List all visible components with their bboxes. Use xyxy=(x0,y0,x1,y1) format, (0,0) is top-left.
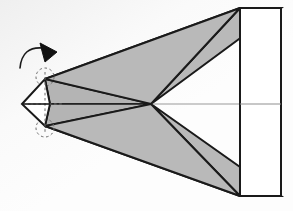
projection-diagram xyxy=(0,0,293,211)
figure-canvas xyxy=(0,0,293,211)
projection-screen-overlay xyxy=(240,8,281,196)
